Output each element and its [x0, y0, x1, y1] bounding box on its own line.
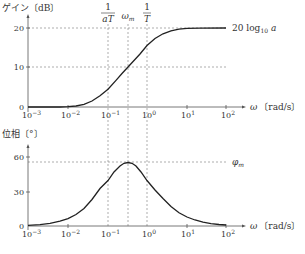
svg-text:101: 101	[181, 109, 195, 120]
gain-x-arrow-icon	[242, 106, 246, 109]
gain-corner-annotations: 1 aT ωm 1 T	[101, 2, 151, 24]
gain-x-axis-label: ω〔rad/s〕	[250, 102, 300, 112]
phase-curve	[28, 163, 226, 226]
svg-text:20: 20	[14, 24, 24, 33]
phase-y-ticks: 60 30 0	[14, 153, 30, 231]
svg-text:10−2: 10−2	[61, 228, 80, 239]
gain-asymptote-label: 20 log10 a	[232, 23, 276, 34]
bode-figure: ゲイン〔dB〕 20 10 0 10−3 10−2 10−1 100	[0, 0, 305, 254]
svg-text:1: 1	[144, 2, 150, 12]
svg-text:102: 102	[221, 228, 235, 239]
svg-text:10−1: 10−1	[101, 228, 120, 239]
gain-y-arrow-icon	[27, 14, 30, 18]
svg-text:aT: aT	[102, 14, 114, 24]
gain-plot: ゲイン〔dB〕 20 10 0 10−3 10−2 10−1 100	[2, 2, 300, 120]
phase-y-arrow-icon	[27, 144, 30, 148]
svg-text:30: 30	[14, 188, 24, 197]
svg-text:101: 101	[181, 228, 195, 239]
svg-text:10−3: 10−3	[22, 228, 41, 239]
phase-x-arrow-icon	[242, 225, 246, 228]
phase-plot: 位相〔°〕 60 30 0 10−3 10−2 10−1 100 101	[2, 120, 300, 239]
svg-text:ωm: ωm	[121, 11, 134, 22]
gain-y-ticks: 20 10 0	[14, 24, 30, 112]
svg-text:10−3: 10−3	[22, 109, 41, 120]
phase-x-axis-label: ω〔rad/s〕	[250, 221, 300, 231]
svg-text:60: 60	[14, 153, 24, 162]
svg-text:10: 10	[14, 63, 24, 72]
svg-text:10−1: 10−1	[101, 109, 120, 120]
phase-y-axis-label: 位相〔°〕	[2, 128, 43, 139]
gain-y-axis-label: ゲイン〔dB〕	[2, 2, 59, 13]
svg-text:100: 100	[142, 228, 156, 239]
svg-text:T: T	[144, 14, 151, 24]
svg-text:102: 102	[221, 109, 235, 120]
gain-curve	[28, 28, 226, 107]
phase-peak-label: φm	[232, 157, 244, 168]
svg-text:1: 1	[105, 2, 111, 12]
svg-text:100: 100	[142, 109, 156, 120]
svg-text:10−2: 10−2	[61, 109, 80, 120]
